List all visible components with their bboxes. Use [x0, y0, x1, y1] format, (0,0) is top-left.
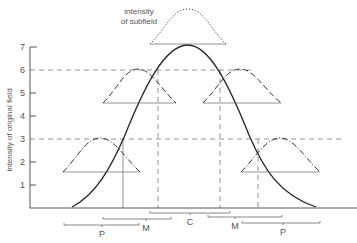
tick-1: 1 [20, 180, 25, 190]
subfield-middle-right [203, 69, 281, 103]
subfield-label-line2: of subfield [121, 17, 157, 26]
tick-7: 7 [20, 42, 25, 52]
y-tick-labels: 1 2 3 4 5 6 7 [20, 42, 25, 190]
tick-4: 4 [20, 111, 25, 121]
diagram-canvas: intensity of subfield intensity of origi… [0, 0, 357, 243]
subfield-middle-left [103, 69, 176, 103]
region-label-center: C [187, 217, 194, 227]
region-label-periphery-left: P [99, 229, 105, 239]
region-label-periphery-right: P [280, 227, 286, 237]
tick-6: 6 [20, 65, 25, 75]
axes [30, 47, 357, 208]
subfield-periphery-left [63, 138, 140, 172]
subfield-center [150, 9, 226, 44]
original-field-curve [72, 45, 316, 207]
region-label-middle-right: M [231, 221, 239, 231]
tick-5: 5 [20, 88, 25, 98]
region-label-middle-left: M [142, 223, 150, 233]
tick-3: 3 [20, 134, 25, 144]
y-axis-label: intensity of original field [5, 88, 14, 171]
guide-lines [30, 70, 345, 208]
subfield-label-line1: intensity [124, 7, 153, 16]
tick-2: 2 [20, 157, 25, 167]
